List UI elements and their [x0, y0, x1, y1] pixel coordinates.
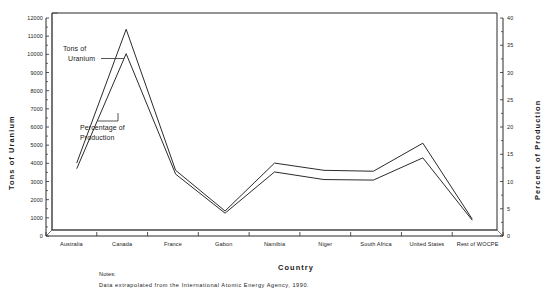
right-tick: 30	[500, 59, 513, 76]
right-axis-ticks: 0510152025303540	[500, 15, 513, 239]
notes-body: Data extrapolated from the International…	[99, 282, 309, 288]
left-tick-label: 1000	[30, 215, 43, 221]
percentage-annotation-line1: Percentage of	[80, 124, 125, 132]
series-line-percentage-of-production	[77, 54, 473, 221]
left-tick-label: 9000	[30, 70, 43, 76]
plot-rect	[52, 13, 497, 230]
left-tick-label: 10000	[27, 51, 43, 57]
right-tick-label: 30	[507, 70, 513, 76]
axis-depth-left	[46, 13, 52, 236]
percentage-annotation-leader	[98, 113, 118, 121]
chart-svg: 0100020003000400050006000700080009000100…	[0, 0, 548, 302]
percentage-annotation: Percentage of Production	[80, 113, 125, 141]
right-tick-label: 25	[507, 97, 513, 103]
x-axis-ticks	[46, 232, 503, 236]
left-tick-label: 4000	[30, 160, 43, 166]
left-tick-label: 8000	[30, 88, 43, 94]
left-tick-label: 11000	[28, 33, 43, 39]
left-tick-label: 7000	[30, 106, 43, 112]
right-tick: 10	[500, 168, 513, 185]
percentage-annotation-line2: Production	[80, 134, 114, 141]
axis-depth-right-foot	[497, 230, 503, 236]
right-tick-label: 15	[507, 151, 513, 157]
right-tick: 25	[500, 86, 513, 103]
tons-annotation-line2: Uranium	[68, 55, 95, 62]
notes-block: Notes: Data extrapolated from the Intern…	[99, 271, 309, 288]
left-tick: 0	[40, 227, 49, 239]
right-tick-label: 10	[507, 179, 513, 185]
x-axis-title: Country	[278, 263, 314, 272]
x-category-label: France	[164, 241, 182, 247]
left-tick-label: 2000	[30, 197, 43, 203]
y-axis-title: Tons of Uranium	[7, 115, 16, 190]
left-tick-label: 5000	[30, 142, 43, 148]
x-category-label: Namibia	[264, 241, 286, 247]
uranium-production-chart: 0100020003000400050006000700080009000100…	[0, 0, 548, 302]
x-category-label: Australia	[60, 241, 83, 247]
x-axis-category-labels: AustraliaCanadaFranceGabonNamibiaNigerSo…	[60, 241, 499, 247]
data-series-group	[77, 29, 473, 220]
right-tick-label: 20	[507, 124, 513, 130]
x-category-label: Rest of WOCPE	[457, 241, 499, 247]
right-tick: 20	[500, 113, 513, 130]
right-tick: 40	[500, 15, 513, 21]
x-category-label: Gabon	[215, 241, 232, 247]
series-line-tons-of-uranium	[77, 29, 473, 219]
y2-axis-title: Percent of Production	[533, 100, 542, 200]
left-tick-label: 0	[40, 233, 43, 239]
right-tick-label: 0	[507, 233, 510, 239]
left-tick-label: 12000	[27, 15, 43, 21]
tons-annotation-line1: Tons of	[63, 45, 86, 52]
left-tick-label: 6000	[30, 124, 43, 130]
right-tick-label: 40	[507, 15, 513, 21]
right-tick: 15	[500, 141, 513, 158]
right-tick: 0	[500, 222, 510, 239]
right-tick-label: 35	[507, 42, 513, 48]
axis-depth-bottom	[46, 230, 497, 236]
notes-heading: Notes:	[99, 271, 116, 277]
x-category-label: Niger	[318, 241, 332, 247]
right-tick-label: 5	[507, 206, 510, 212]
x-category-label: Canada	[112, 241, 133, 247]
left-tick-label: 3000	[30, 179, 43, 185]
right-tick: 5	[500, 195, 510, 212]
right-tick: 35	[500, 32, 513, 49]
x-category-label: United States	[409, 241, 444, 247]
x-category-label: South Africa	[360, 241, 392, 247]
